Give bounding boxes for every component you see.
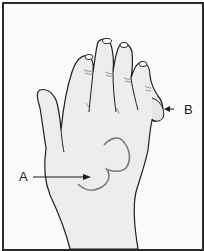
- label-a: A: [19, 170, 28, 183]
- hand-illustration: [0, 0, 204, 251]
- arrow-b: [164, 106, 174, 112]
- hand-outline: [37, 39, 163, 249]
- label-b: B: [184, 103, 193, 116]
- swelling-b: [152, 98, 164, 121]
